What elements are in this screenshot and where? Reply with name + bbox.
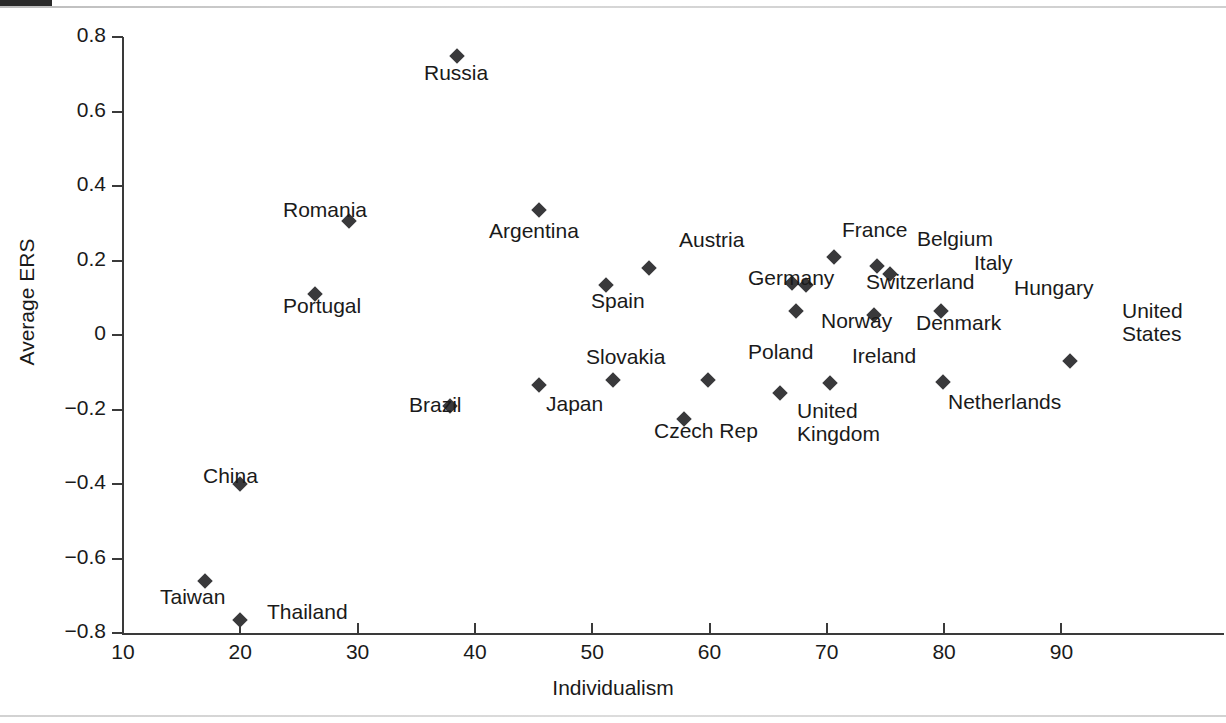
data-point-label: Italy	[974, 252, 1013, 275]
data-point-label: Japan	[546, 393, 603, 416]
data-point-label: Ireland	[852, 345, 916, 368]
scatter-plot: 0.80.60.40.20−0.2−0.4−0.6−0.8 1020304050…	[0, 0, 1226, 723]
data-point-marker	[1062, 353, 1078, 369]
x-tick-label: 90	[1031, 640, 1091, 664]
data-point-label: Poland	[748, 341, 813, 364]
data-point-label: Czech Rep	[654, 420, 758, 443]
data-point-label: UnitedKingdom	[797, 400, 880, 445]
y-tick-mark	[112, 111, 123, 113]
y-tick-label: −0.6	[36, 545, 106, 569]
x-tick-label: 50	[562, 640, 622, 664]
data-point-marker	[789, 303, 805, 319]
y-tick-mark	[112, 334, 123, 336]
data-point-label: Portugal	[283, 295, 361, 318]
x-tick-mark	[1060, 623, 1062, 634]
data-point-label: Denmark	[916, 312, 1001, 335]
data-point-label: Switzerland	[866, 271, 975, 294]
data-point-marker	[532, 378, 548, 394]
x-axis-line	[122, 633, 1224, 635]
data-point-label: Belgium	[917, 228, 993, 251]
x-tick-mark	[591, 623, 593, 634]
data-point-label: Brazil	[409, 394, 462, 417]
y-tick-mark	[112, 260, 123, 262]
y-tick-label: −0.2	[36, 396, 106, 420]
x-tick-label: 30	[328, 640, 388, 664]
y-tick-label: 0.6	[36, 98, 106, 122]
x-tick-mark	[474, 623, 476, 634]
data-point-label: France	[842, 219, 907, 242]
x-tick-label: 60	[680, 640, 740, 664]
x-tick-label: 70	[797, 640, 857, 664]
figure-page: 0.80.60.40.20−0.2−0.4−0.6−0.8 1020304050…	[0, 0, 1226, 723]
data-point-marker	[823, 376, 839, 392]
data-point-marker	[606, 372, 622, 388]
data-point-label: Slovakia	[586, 346, 665, 369]
data-point-label: Spain	[591, 290, 645, 313]
y-tick-mark	[112, 36, 123, 38]
data-point-marker	[772, 385, 788, 401]
data-point-label: Russia	[424, 62, 488, 85]
x-tick-mark	[943, 623, 945, 634]
data-point-label: Argentina	[489, 220, 579, 243]
x-axis-title: Individualism	[0, 676, 1226, 700]
data-point-marker	[701, 372, 717, 388]
data-point-label: Austria	[679, 229, 744, 252]
data-point-marker	[532, 202, 548, 218]
y-tick-mark	[112, 483, 123, 485]
data-point-marker	[233, 612, 249, 628]
y-tick-label: 0	[36, 321, 106, 345]
y-tick-label: −0.4	[36, 470, 106, 494]
y-tick-mark	[112, 558, 123, 560]
x-tick-mark	[122, 623, 124, 634]
data-point-label: Romania	[283, 199, 367, 222]
data-point-label: Hungary	[1014, 277, 1093, 300]
y-tick-mark	[112, 409, 123, 411]
y-tick-mark	[112, 185, 123, 187]
x-tick-mark	[357, 623, 359, 634]
data-point-label: Germany	[748, 267, 834, 290]
x-tick-label: 80	[914, 640, 974, 664]
x-tick-label: 40	[445, 640, 505, 664]
data-point-label: China	[203, 465, 258, 488]
y-tick-label: 0.4	[36, 172, 106, 196]
data-point-marker	[935, 374, 951, 390]
data-point-label: Taiwan	[160, 586, 225, 609]
data-point-label: Netherlands	[948, 391, 1061, 414]
data-point-label: UnitedStates	[1122, 300, 1183, 345]
data-point-marker	[641, 260, 657, 276]
y-tick-label: 0.8	[36, 23, 106, 47]
x-tick-mark	[709, 623, 711, 634]
data-point-marker	[826, 249, 842, 265]
x-tick-label: 10	[93, 640, 153, 664]
x-tick-label: 20	[210, 640, 270, 664]
y-tick-label: 0.2	[36, 247, 106, 271]
x-tick-mark	[826, 623, 828, 634]
data-point-label: Norway	[821, 310, 892, 333]
data-point-label: Thailand	[267, 601, 348, 624]
y-axis-title: Average ERS	[15, 202, 39, 402]
